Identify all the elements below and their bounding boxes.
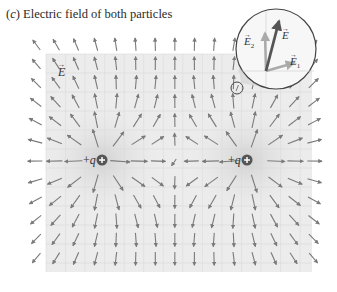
field-arrow [233, 75, 234, 89]
field-arrow [214, 38, 215, 51]
field-arrow [74, 39, 79, 51]
field-arrow [30, 215, 41, 224]
field-arrow [29, 197, 41, 204]
svg-text:→: → [282, 25, 289, 33]
field-arrow [233, 233, 234, 247]
electric-field-diagram: +q+q E→E1→E2→ E → [0, 0, 337, 292]
field-arrow [31, 78, 40, 87]
charge-label: +q [83, 153, 96, 167]
inset-circle [236, 9, 316, 89]
field-arrow [28, 179, 42, 183]
field-label-vector-arrow: → [57, 60, 65, 69]
field-arrow [202, 161, 219, 162]
field-arrow [131, 161, 148, 162]
vector-E2 [265, 33, 266, 71]
field-arrow [28, 139, 42, 143]
field-arrow [32, 253, 40, 263]
field-arrow [65, 161, 83, 162]
charge-2: +q [228, 153, 253, 167]
field-arrow [94, 38, 97, 51]
field-arrow [233, 38, 235, 51]
field-arrow [267, 161, 285, 162]
field-arrow [33, 40, 40, 50]
field-arrow [32, 59, 40, 69]
field-arrow [135, 38, 136, 51]
field-arrow [29, 118, 42, 125]
field-arrow [30, 98, 41, 106]
svg-text:→: → [244, 31, 251, 39]
charge-1: +q [83, 153, 108, 167]
svg-text:→: → [290, 51, 297, 59]
field-arrow [31, 234, 40, 243]
field-arrow [53, 39, 59, 50]
field-arrow [115, 38, 117, 51]
field-arrow [116, 233, 117, 247]
charge-label: +q [228, 153, 241, 167]
